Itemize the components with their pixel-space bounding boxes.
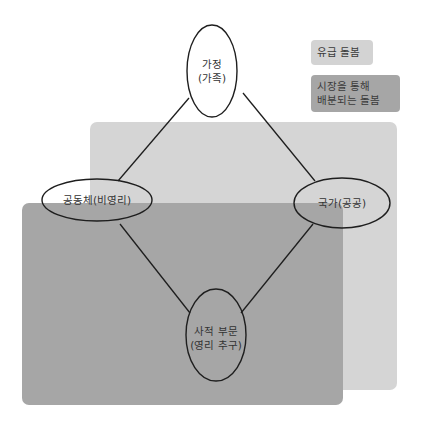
node-state: 국가(공공) (296, 196, 388, 210)
edge-family-community (118, 98, 189, 181)
node-community-label: 공동체(비영리) (42, 193, 152, 207)
node-family-label-line1: 가정 (182, 57, 242, 71)
node-family: 가정 (가족) (182, 57, 242, 85)
node-community: 공동체(비영리) (42, 193, 152, 207)
edge-family-state (243, 93, 315, 181)
node-private: 사적 부문 (영리 추구) (181, 324, 251, 352)
node-family-label-line2: (가족) (182, 71, 242, 85)
edge-community-private (120, 224, 190, 313)
node-state-label: 국가(공공) (296, 196, 388, 210)
node-private-label-line1: 사적 부문 (181, 324, 251, 338)
node-private-label-line2: (영리 추구) (181, 338, 251, 352)
edge-state-private (241, 224, 313, 313)
